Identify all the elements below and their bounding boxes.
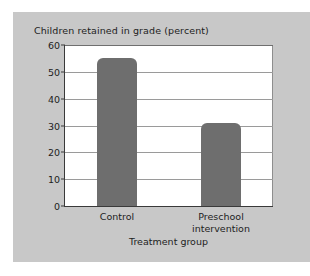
y-tick-label: 40 [48,93,60,104]
chart-title: Children retained in grade (percent) [34,25,209,36]
y-tick-label: 50 [48,66,60,77]
y-tick-mark [61,152,65,153]
x-tick-label: Control [100,211,134,223]
y-tick-label: 20 [48,147,60,158]
y-tick-mark [61,179,65,180]
y-tick-mark [61,71,65,72]
bar [201,123,241,206]
x-axis-title: Treatment group [64,236,273,247]
y-tick-label: 0 [54,201,60,212]
x-tick-label: Preschool intervention [192,211,250,234]
y-tick-mark [61,206,65,207]
chart-panel: Children retained in grade (percent) 010… [13,12,310,262]
figure-root: Children retained in grade (percent) 010… [0,0,310,276]
y-tick-mark [61,98,65,99]
y-tick-label: 10 [48,174,60,185]
y-tick-mark [61,45,65,46]
y-tick-label: 30 [48,120,60,131]
plot-area: 0102030405060 ControlPreschool intervent… [64,45,273,207]
gridline [65,45,273,46]
y-tick-mark [61,125,65,126]
bar [97,58,137,206]
y-tick-label: 60 [48,40,60,51]
